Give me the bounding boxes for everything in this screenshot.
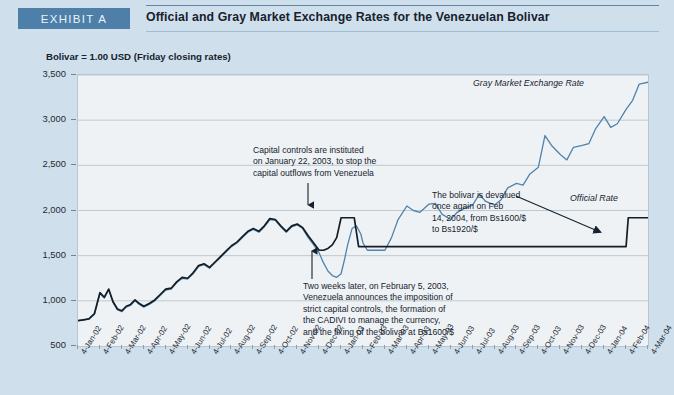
- y-axis-tick-mark: [71, 74, 76, 75]
- gridlines-group: [78, 75, 648, 301]
- y-axis-tick-label: 2,000: [14, 204, 66, 215]
- y-axis-tick-mark: [71, 300, 76, 301]
- x-axis-tick-label: 4-Mar-04: [649, 323, 674, 355]
- y-axis-tick-label: 3,500: [14, 68, 66, 79]
- y-axis-tick-mark: [71, 345, 76, 346]
- page-title: Official and Gray Market Exchange Rates …: [146, 10, 550, 24]
- y-axis-tick-mark: [71, 210, 76, 211]
- y-axis-tick-label: 500: [14, 339, 66, 350]
- y-axis-tick-label: 3,000: [14, 113, 66, 124]
- y-axis-tick-mark: [71, 164, 76, 165]
- chart-plot-area: [77, 74, 649, 347]
- chart-line-canvas: [78, 75, 648, 346]
- header-top-rule: [146, 5, 659, 6]
- exhibit-tag-badge: EXHIBIT A: [18, 8, 130, 29]
- header-bottom-rule: [146, 31, 659, 32]
- chart-subtitle: Bolivar = 1.00 USD (Friday closing rates…: [46, 51, 231, 62]
- exhibit-tag-label: EXHIBIT A: [41, 13, 107, 25]
- y-axis-tick-label: 2,500: [14, 158, 66, 169]
- series-group: [78, 82, 648, 320]
- y-axis-tick-label: 1,000: [14, 294, 66, 305]
- y-axis-tick-label: 1,500: [14, 249, 66, 260]
- y-axis-tick-mark: [71, 255, 76, 256]
- y-axis-tick-mark: [71, 119, 76, 120]
- exhibit-header: EXHIBIT A Official and Gray Market Excha…: [0, 0, 674, 34]
